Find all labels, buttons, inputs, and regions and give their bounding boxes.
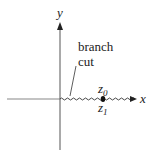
y-axis-label: y: [55, 5, 63, 20]
branch-cut-diagram: y x branch cut z0 z1: [0, 0, 155, 150]
point-label-z1: z1: [97, 100, 108, 117]
x-axis-label: x: [139, 91, 146, 106]
x-axis-arrow-icon: [130, 96, 137, 102]
branch-cut-label-line1: branch: [78, 39, 114, 54]
point-label-z0: z0: [97, 81, 108, 98]
y-axis-arrow-icon: [57, 22, 63, 30]
branch-cut-leader-line: [70, 66, 76, 96]
branch-cut-label-line2: cut: [78, 54, 94, 69]
